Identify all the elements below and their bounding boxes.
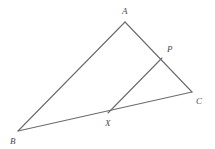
label-P: P: [166, 44, 173, 54]
geometry-canvas: A B C P X: [0, 0, 215, 149]
label-X: X: [104, 118, 111, 128]
segment-AC: [125, 22, 192, 92]
segment-AB: [18, 22, 125, 131]
segments-group: [18, 22, 192, 131]
label-B: B: [10, 136, 16, 146]
label-A: A: [121, 6, 128, 16]
geometry-figure: A B C P X: [0, 0, 215, 149]
label-C: C: [196, 96, 203, 106]
vertex-labels-group: A B C P X: [10, 6, 203, 146]
